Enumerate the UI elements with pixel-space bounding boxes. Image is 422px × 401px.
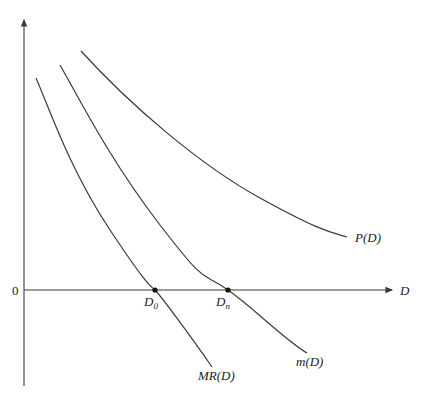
m-curve-label: m(D) bbox=[296, 354, 323, 369]
dn-point bbox=[225, 287, 230, 292]
d0-point bbox=[152, 287, 157, 292]
dn-label: Dn bbox=[215, 294, 230, 311]
origin-label: 0 bbox=[12, 283, 19, 298]
economics-diagram: 0 D D0 Dn P(D) m(D) MR(D) bbox=[0, 0, 422, 401]
d0-label: D0 bbox=[143, 294, 158, 311]
p-curve-label: P(D) bbox=[354, 230, 381, 245]
p-curve bbox=[81, 51, 347, 237]
mr-curve bbox=[36, 78, 212, 367]
mr-curve-label: MR(D) bbox=[197, 368, 235, 383]
x-axis-label: D bbox=[399, 283, 410, 298]
